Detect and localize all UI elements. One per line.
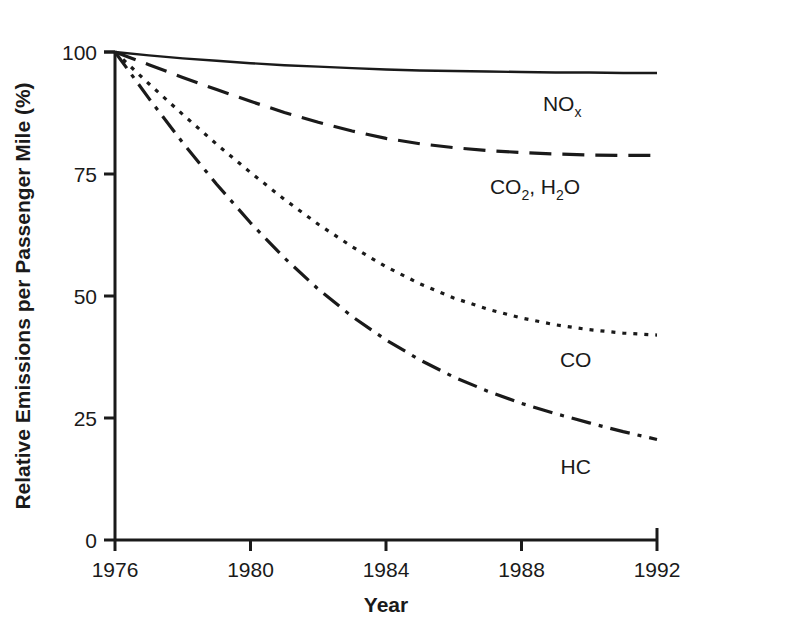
x-tick-label: 1980 <box>227 558 274 581</box>
series-label-co: CO <box>560 348 592 371</box>
y-axis-title: Relative Emissions per Passenger Mile (%… <box>11 82 34 509</box>
x-axis-title: Year <box>364 593 408 616</box>
x-tick-label: 1992 <box>634 558 681 581</box>
y-tick-label: 100 <box>62 41 97 64</box>
x-tick-label: 1988 <box>498 558 545 581</box>
series-label-co2-h2o: CO2, H2O <box>490 175 580 203</box>
series-line-nox <box>115 52 657 73</box>
series-label-nox: NOx <box>543 92 582 120</box>
x-tick-label: 1976 <box>92 558 139 581</box>
chart-canvas: 025507510019761980198419881992YearRelati… <box>0 0 805 638</box>
y-tick-label: 75 <box>74 163 97 186</box>
emissions-line-chart: 025507510019761980198419881992YearRelati… <box>0 0 805 638</box>
series-label-hc: HC <box>561 455 591 478</box>
y-tick-label: 50 <box>74 285 97 308</box>
x-tick-label: 1984 <box>363 558 410 581</box>
y-tick-label: 0 <box>85 529 97 552</box>
y-tick-label: 25 <box>74 407 97 430</box>
